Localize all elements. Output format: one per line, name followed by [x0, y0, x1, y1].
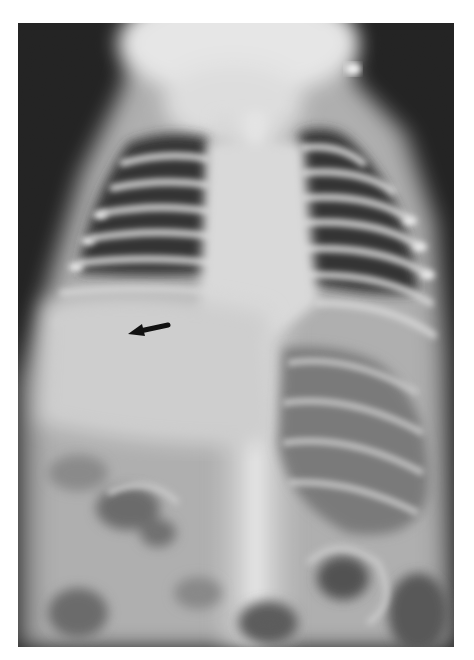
radiograph-image [18, 23, 454, 647]
radiograph-svg [18, 23, 454, 647]
